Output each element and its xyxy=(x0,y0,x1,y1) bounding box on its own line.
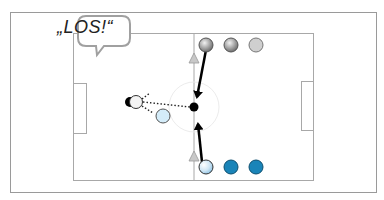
player-blue-2 xyxy=(224,160,238,174)
speech-bubble-text: „LOS!“ xyxy=(50,17,120,38)
player-gray-3 xyxy=(249,38,263,52)
white-player xyxy=(125,96,143,109)
right-goal-box xyxy=(302,82,314,131)
center-ball xyxy=(190,103,199,112)
player-blue-1 xyxy=(199,160,213,174)
cone-top-icon xyxy=(189,53,199,63)
left-goal-box xyxy=(74,84,87,134)
arrow-top-run xyxy=(197,50,206,97)
light-blue-player xyxy=(156,109,170,123)
arrow-bottom-run xyxy=(198,124,202,162)
cone-bottom-icon xyxy=(189,151,199,161)
player-gray-2 xyxy=(224,38,238,52)
player-blue-3 xyxy=(249,160,263,174)
player-gray-1 xyxy=(199,38,213,52)
